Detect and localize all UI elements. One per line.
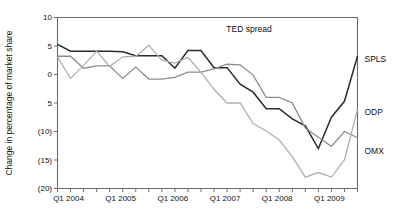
series-label-spls: SPLS xyxy=(365,54,387,64)
data-series-group xyxy=(58,44,358,177)
series-line-odp xyxy=(58,56,358,146)
y-tick-label: (10) xyxy=(38,127,53,136)
y-tick-label: 5 xyxy=(48,42,53,51)
series-label-odp: ODP xyxy=(365,107,384,117)
chart-container: Change in percentage of market share 105… xyxy=(0,0,405,218)
x-tick-label: Q1 2009 xyxy=(314,194,345,203)
y-axis-title: Change in percentage of market share xyxy=(4,30,14,175)
y-tick-label: 5 xyxy=(48,99,53,108)
y-tick-label: 10 xyxy=(43,13,52,22)
y-axis-ticks: 10505(10)(15)(20) xyxy=(38,13,58,193)
series-line-omx xyxy=(58,45,358,177)
series-label-omx: OMX xyxy=(365,146,385,156)
line-chart: Change in percentage of market share 105… xyxy=(0,0,405,218)
x-axis-ticks: Q1 2004Q1 2005Q1 2006Q1 2007Q1 2008Q1 20… xyxy=(53,189,357,204)
y-tick-label: (20) xyxy=(38,184,53,193)
y-tick-label: 0 xyxy=(48,70,53,79)
x-tick-label: Q1 2004 xyxy=(53,194,84,203)
x-tick-label: Q1 2008 xyxy=(262,194,293,203)
y-tick-label: (15) xyxy=(38,156,53,165)
x-tick-label: Q1 2006 xyxy=(157,194,188,203)
x-tick-label: Q1 2007 xyxy=(210,194,241,203)
series-labels-group: SPLSODPOMX xyxy=(365,54,387,156)
x-tick-label: Q1 2005 xyxy=(105,194,136,203)
ted-spread-annotation: TED spread xyxy=(226,24,272,34)
